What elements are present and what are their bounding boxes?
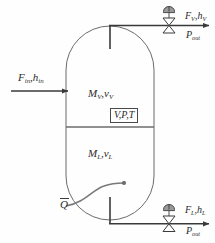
vapor-outlet-pressure-label: Pout (186, 30, 200, 40)
state-variables-box: V,P,T (110, 108, 138, 123)
liquid-outlet-flow-label: FL,hL (185, 205, 206, 215)
state-variables-text: V,P,T (114, 109, 134, 120)
liquid-outlet-pressure-label: Pout (186, 226, 200, 236)
liquid-volume-symbol: v (104, 147, 109, 159)
vapor-volume-subscript: V (109, 93, 113, 100)
heat-input-label: Q (60, 198, 69, 210)
vapor-mass-symbol: M (88, 87, 97, 99)
liquid-volume-subscript: L (109, 153, 113, 160)
vapor-pressure-subscript: out (192, 34, 200, 41)
vapor-enthalpy-subscript: V (202, 15, 206, 22)
inlet-flow-symbol: F (18, 71, 25, 83)
liquid-enthalpy-subscript: L (202, 209, 205, 216)
liquid-flow-subscript: L (191, 209, 194, 216)
vapor-mass-subscript: V (97, 93, 101, 100)
inlet-enthalpy-subscript: in (38, 77, 43, 84)
liquid-mass-symbol: M (88, 147, 97, 159)
diagram-canvas: Fin,hin MV,vV ML,vL V,P,T FV,hV Pout FL,… (0, 0, 215, 243)
liquid-phase-label: ML,vL (88, 148, 112, 159)
inlet-stream-label: Fin,hin (18, 72, 44, 83)
vapor-flow-subscript: V (191, 15, 195, 22)
liquid-control-valve[interactable] (163, 205, 175, 232)
liquid-mass-subscript: L (97, 153, 101, 160)
process-flow-diagram (0, 0, 215, 243)
vapor-phase-label: MV,vV (88, 88, 113, 99)
vapor-control-valve[interactable] (163, 7, 175, 34)
heat-input-symbol: Q (60, 198, 68, 210)
inlet-flow-subscript: in (25, 77, 30, 84)
vessel-shell (66, 26, 154, 220)
liquid-pressure-subscript: out (192, 230, 200, 237)
vapor-outlet-flow-label: FV,hV (185, 11, 206, 21)
